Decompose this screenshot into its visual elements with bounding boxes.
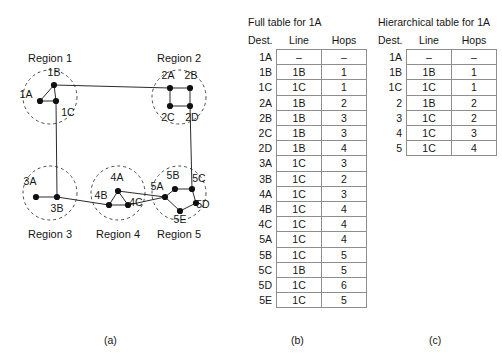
table-row: 3B1C2 [248,171,367,186]
network-diagram-svg: 1A1B1C2A2B2C2D3A3B4A4B4C5A5B5C5D5ERegion… [0,0,236,260]
cell-line: – [407,50,452,65]
cell-line: 1B [407,65,452,80]
cell-line: 1C [407,141,452,156]
cell-line: 1C [277,80,322,95]
table-row: 4C1C4 [248,217,367,232]
cell-hops: – [452,50,497,65]
table-row: 5C1B5 [248,262,367,277]
hierarchical-table-block: Hierarchical table for 1A Dest. Line Hop… [378,16,497,156]
table-row: 5D1C6 [248,278,367,293]
node-2B [187,85,193,91]
link-1C-3B [56,101,57,197]
cell-line: 1B [277,262,322,277]
column-header-hops: Hops [452,34,497,50]
node-label-3B: 3B [51,202,64,214]
table-row: 5E1C5 [248,293,367,308]
hierarchical-table-body: 1A––1B1B11C1C121B231C241C351C4 [378,50,497,156]
node-5A [162,194,168,200]
region-label-r5: Region 5 [157,228,201,240]
table-row: 41C3 [378,126,497,141]
cell-hops: 1 [322,80,367,95]
node-3B [54,194,60,200]
node-5B [172,186,178,192]
cell-dest: 5A [248,232,277,247]
cell-hops: 3 [322,126,367,141]
table-row: 5B1C5 [248,247,367,262]
table-row: 5A1C4 [248,232,367,247]
node-4A [115,188,121,194]
cell-line: 1C [277,156,322,171]
column-header-dest: Dest. [378,34,407,50]
node-2C [167,103,173,109]
cell-hops: 4 [322,217,367,232]
link-1A-1B [40,85,54,101]
cell-hops: 5 [322,247,367,262]
cell-hops: 3 [452,126,497,141]
table-row: 1C1C1 [378,80,497,95]
node-label-1B: 1B [48,66,61,78]
cell-dest: 2B [248,110,277,125]
cell-line: 1B [277,126,322,141]
region-label-r3: Region 3 [28,228,72,240]
node-4B [106,202,112,208]
region-label-r4: Region 4 [96,228,140,240]
node-1C [53,98,59,104]
table-row: 1A–– [248,50,367,65]
cell-line: 1C [277,247,322,262]
cell-hops: 1 [452,80,497,95]
cell-hops: 4 [452,141,497,156]
full-table-body: 1A––1B1B11C1C12A1B22B1B32C1B32D1B43A1C33… [248,50,367,308]
caption-a: (a) [104,334,117,346]
node-label-4B: 4B [95,189,108,201]
cell-line: 1C [277,217,322,232]
cell-line: – [277,50,322,65]
cell-hops: 4 [322,141,367,156]
cell-hops: 2 [322,171,367,186]
cell-dest: 4C [248,217,277,232]
table-row: 4A1C3 [248,186,367,201]
node-label-4C: 4C [129,196,143,208]
cell-line: 1C [277,202,322,217]
node-label-5E: 5E [174,213,187,225]
cell-line: 1C [277,232,322,247]
table-row: 1B1B1 [378,65,497,80]
node-label-5B: 5B [167,169,180,181]
full-table-title: Full table for 1A [248,16,367,28]
caption-c: (c) [429,334,441,346]
node-label-2A: 2A [162,69,175,81]
cell-dest: 5 [378,141,407,156]
cell-dest: 1C [378,80,407,95]
table-row: 1C1C1 [248,80,367,95]
cell-dest: 4A [248,186,277,201]
cell-hops: 4 [322,202,367,217]
table-row: 1B1B1 [248,65,367,80]
node-3A [33,194,39,200]
cell-hops: 3 [322,110,367,125]
node-label-2C: 2C [161,111,175,123]
cell-hops: 1 [322,65,367,80]
cell-line: 1B [407,95,452,110]
cell-line: 1B [277,95,322,110]
cell-line: 1C [277,293,322,308]
node-label-5D: 5D [196,198,210,210]
cell-line: 1C [407,126,452,141]
cell-line: 1C [407,110,452,125]
full-routing-table: Dest. Line Hops 1A––1B1B11C1C12A1B22B1B3… [248,34,367,308]
cell-dest: 3A [248,156,277,171]
table-row: 3A1C3 [248,156,367,171]
node-5C [189,186,195,192]
node-label-5A: 5A [151,180,164,192]
cell-dest: 2 [378,95,407,110]
cell-line: 1B [277,65,322,80]
cell-dest: 1C [248,80,277,95]
cell-line: 1C [277,186,322,201]
cell-dest: 5C [248,262,277,277]
cell-line: 1C [277,171,322,186]
node-label-2B: 2B [185,69,198,81]
cell-hops: – [322,50,367,65]
cell-hops: 4 [322,232,367,247]
cell-dest: 1B [248,65,277,80]
node-2D [187,103,193,109]
table-row: 2A1B2 [248,95,367,110]
cell-dest: 2A [248,95,277,110]
